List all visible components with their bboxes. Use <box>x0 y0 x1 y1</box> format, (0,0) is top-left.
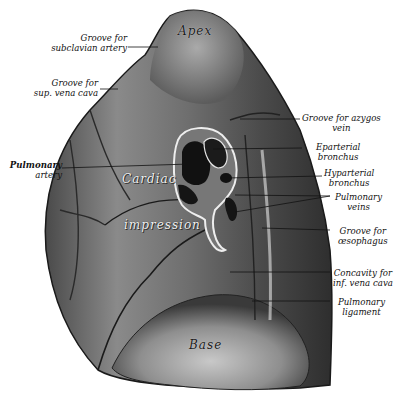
label-concavity-inf-vena-cava: Concavity for inf. vena cava <box>333 268 393 288</box>
label-groove-subclavian-artery: Groove for subclavian artery <box>51 33 127 53</box>
region-apex: Apex <box>178 24 212 38</box>
label-hyparterial-bronchus: Hyparterial bronchus <box>324 168 374 188</box>
region-cardiac: Cardiac <box>122 172 176 186</box>
label-groove-oesophagus: Groove for œsophagus <box>338 226 388 246</box>
label-pulmonary-veins: Pulmonary veins <box>335 192 382 212</box>
region-base: Base <box>189 338 222 352</box>
label-pulmonary-artery: Pulmonary artery <box>10 160 62 180</box>
region-impression: impression <box>124 218 201 232</box>
label-groove-sup-vena-cava: Groove for sup. vena cava <box>34 78 98 98</box>
label-groove-azygos-vein: Groove for azygos vein <box>302 113 381 133</box>
label-pulmonary-ligament: Pulmonary ligament <box>338 297 385 317</box>
label-eparterial-bronchus: Eparterial bronchus <box>316 142 360 162</box>
